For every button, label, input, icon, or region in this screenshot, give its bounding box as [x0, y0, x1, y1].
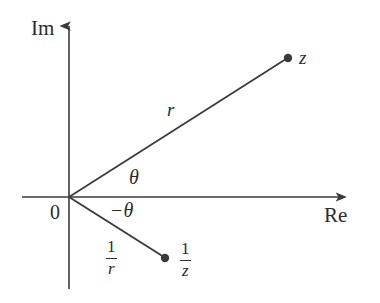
point-marker-reciprocal-z: [161, 254, 169, 262]
origin-label: 0: [50, 202, 60, 222]
radius-segment-z: [69, 59, 286, 197]
point-label-z: z: [299, 48, 306, 67]
angle-label-theta: θ: [129, 167, 139, 187]
complex-plane-figure: Im Re 0 z r θ −θ 1 r 1 z: [0, 0, 380, 303]
angle-label-negative-theta: −θ: [110, 200, 133, 220]
segment-label-one-over-r: 1 r: [106, 238, 117, 278]
one-over-z-denominator: z: [180, 262, 191, 280]
point-label-one-over-z: 1 z: [180, 240, 191, 280]
imaginary-axis-label: Im: [31, 18, 54, 39]
one-over-r-numerator: 1: [106, 238, 117, 256]
one-over-z-numerator: 1: [180, 240, 191, 258]
real-axis-label: Re: [324, 205, 347, 226]
point-marker-z: [284, 54, 292, 62]
segment-label-r: r: [167, 100, 174, 119]
one-over-r-denominator: r: [106, 260, 117, 278]
